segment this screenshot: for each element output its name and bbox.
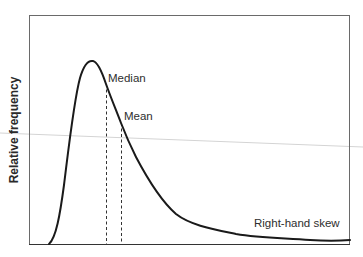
y-axis-label: Relative frequency <box>7 76 21 183</box>
mean-label: Mean <box>124 110 153 122</box>
skewed-distribution-figure: Relative frequency Median Mean Right-han… <box>0 0 363 257</box>
scan-artifact-line <box>0 133 363 147</box>
plot-frame <box>30 16 350 245</box>
median-label: Median <box>108 72 146 84</box>
chart-svg: Relative frequency Median Mean Right-han… <box>0 0 363 257</box>
right-hand-skew-label: Right-hand skew <box>254 217 340 229</box>
